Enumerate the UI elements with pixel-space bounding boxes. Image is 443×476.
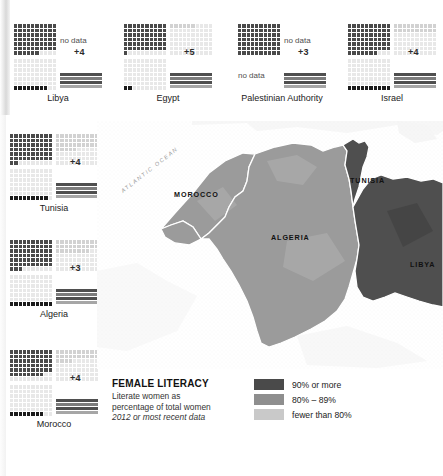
dot-cell (77, 152, 80, 156)
dot-cell (27, 161, 30, 165)
dot-cell (90, 148, 93, 152)
dot-cell (60, 245, 63, 249)
legend-swatch-fewer-than-80 (254, 409, 284, 420)
country-panel-palestinian-authority[interactable]: no datano data+3Palestinian Authority (238, 24, 326, 103)
dot-cell (19, 192, 22, 196)
dot-cell (238, 33, 241, 37)
dot-cell (27, 169, 30, 173)
country-panel-israel[interactable]: +4Israel (348, 24, 436, 103)
dot-cell (133, 73, 136, 77)
dot-cell (44, 139, 47, 143)
dot-cell (27, 68, 30, 72)
dot-cell (387, 24, 390, 28)
dot-cell (174, 29, 177, 33)
dot-cell (53, 24, 56, 28)
dot-cell (40, 73, 43, 77)
dot-cell (191, 29, 194, 33)
dot-cell (378, 42, 381, 46)
country-panel-egypt[interactable]: +5Egypt (124, 24, 212, 103)
dot-cell (374, 77, 377, 81)
map-country-libya[interactable] (353, 175, 443, 307)
dot-cell (49, 364, 52, 368)
dot-cell (124, 51, 127, 55)
dot-cell (200, 47, 203, 51)
dot-cell (14, 187, 17, 191)
dot-cell (23, 254, 26, 258)
dot-cell (60, 240, 63, 244)
dot-cell (10, 373, 13, 377)
dot-cell (49, 161, 52, 165)
dot-cell (60, 134, 63, 138)
dot-cell (348, 42, 351, 46)
dot-cell (163, 68, 166, 72)
dot-cell (23, 187, 26, 191)
dot-cell (382, 24, 385, 28)
dot-cell (31, 293, 34, 297)
dot-cell (86, 355, 89, 359)
map-label-morocco: MOROCCO (174, 190, 219, 199)
dot-cell (53, 51, 56, 55)
country-label: Israel (348, 93, 436, 103)
dot-cell (27, 289, 30, 293)
dot-cell (268, 38, 271, 42)
dot-cell (428, 38, 431, 42)
dot-cell (348, 47, 351, 51)
dot-cell (369, 86, 372, 90)
gap-bar-line (284, 77, 326, 80)
dot-cell (73, 139, 76, 143)
dot-cell (255, 24, 258, 28)
dot-cell (65, 267, 68, 271)
dot-cell (361, 29, 364, 33)
legend-key-row[interactable]: fewer than 80% (254, 409, 352, 420)
dot-cell (170, 47, 173, 51)
dot-cell (44, 399, 47, 403)
dot-cell (23, 263, 26, 267)
dot-cell (31, 42, 34, 46)
gap-value-label: +4 (70, 157, 81, 167)
dot-cell (19, 280, 22, 284)
dot-cell (40, 359, 43, 363)
dot-cell (424, 51, 427, 55)
dot-cell (73, 245, 76, 249)
dot-cell (44, 161, 47, 165)
dot-cell (49, 196, 52, 200)
dot-cell (154, 33, 157, 37)
dot-cell (40, 178, 43, 182)
gap-value-label: +3 (70, 263, 81, 273)
dot-cell (27, 368, 30, 372)
country-panel-tunisia[interactable]: +4Tunisia (10, 134, 98, 213)
dot-cell (150, 29, 153, 33)
country-panel-algeria[interactable]: +3Algeria (10, 240, 98, 319)
legend-key-row[interactable]: 80% – 89% (254, 394, 352, 405)
dot-cell (23, 77, 26, 81)
dot-cell (128, 77, 131, 81)
dot-cell (31, 134, 34, 138)
dot-cell (204, 42, 207, 46)
dot-cell (141, 59, 144, 63)
dot-cell (14, 245, 17, 249)
dot-cell (150, 86, 153, 90)
dot-cell (433, 47, 436, 51)
dot-cell (277, 33, 280, 37)
dot-cell (40, 33, 43, 37)
dot-cell (44, 394, 47, 398)
dot-cell (82, 263, 85, 267)
dot-cell (196, 33, 199, 37)
dot-cell (424, 29, 427, 33)
dot-cell (90, 267, 93, 271)
dot-cell (27, 263, 30, 267)
dot-cell (179, 24, 182, 28)
country-panel-libya[interactable]: no data+4Libya (14, 24, 102, 103)
dot-cell (137, 38, 140, 42)
country-panel-morocco[interactable]: +4Morocco (10, 350, 98, 429)
dot-cell (49, 373, 52, 377)
dot-cell (247, 47, 250, 51)
dot-cell (60, 267, 63, 271)
dot-cell (23, 394, 26, 398)
dot-cell (124, 59, 127, 63)
legend-key-row[interactable]: 90% or more (254, 379, 352, 390)
dot-cell (382, 82, 385, 86)
dot-cell (124, 82, 127, 86)
dot-cell (145, 77, 148, 81)
dot-cell (394, 38, 397, 42)
